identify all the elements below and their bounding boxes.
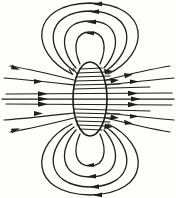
flare-line-upper-left <box>10 66 74 80</box>
arrow-axial-center-left <box>38 96 48 101</box>
arrow-upper-4 <box>93 1 102 6</box>
arrow-upper-2 <box>87 20 96 25</box>
arrow-flare-lower-right-2 <box>130 114 139 119</box>
arrow-flare-upper-right-2 <box>130 79 139 84</box>
arrow-flare-lower-left-2 <box>34 111 43 116</box>
axial-line-down-2 <box>74 109 150 111</box>
arrow-lower-4 <box>93 192 102 197</box>
field-loop-lower-1 <box>76 134 104 166</box>
lower-field-loops <box>42 124 138 197</box>
arrow-upper-3 <box>90 9 99 14</box>
magnetic-field-figure <box>0 0 176 198</box>
field-loop-lower-2 <box>64 130 115 177</box>
arrow-axial-up-1-left <box>38 91 48 96</box>
axial-line-down-4 <box>75 117 112 118</box>
arrow-axial-down-1-left <box>38 102 48 107</box>
arrow-flare-upper-left-2 <box>34 79 43 84</box>
arrow-axial-center-right <box>131 96 141 101</box>
winding-hatch-marks <box>69 68 77 75</box>
axial-line-down-5 <box>76 121 110 122</box>
field-loop-upper-1 <box>76 32 104 64</box>
arrow-lower-3 <box>90 184 99 189</box>
arrow-lower-2 <box>87 174 96 179</box>
axial-field-lines <box>2 68 174 130</box>
field-loop-upper-2 <box>64 21 115 68</box>
arrow-axial-up-1-right <box>128 91 138 96</box>
arrow-coil-lower-right <box>110 114 119 120</box>
field-diagram-svg <box>0 0 176 198</box>
flare-line-lower-left <box>10 118 74 132</box>
axial-line-up-2 <box>74 87 150 89</box>
axial-line-down-3 <box>74 113 120 114</box>
field-loop-upper-4 <box>42 3 138 74</box>
field-loop-lower-4 <box>42 124 138 195</box>
axial-line-up-3 <box>74 84 120 85</box>
flare-line-lower-right <box>106 118 170 132</box>
upper-field-loops <box>42 1 138 74</box>
axial-line-up-1 <box>6 93 172 94</box>
axial-line-up-4 <box>75 80 112 81</box>
flare-line-upper-right <box>106 66 170 80</box>
axial-line-up-5 <box>76 76 110 77</box>
arrow-axial-down-1-right <box>128 102 138 107</box>
arrow-coil-upper-right <box>110 78 119 84</box>
axial-line-down-1 <box>6 104 172 105</box>
